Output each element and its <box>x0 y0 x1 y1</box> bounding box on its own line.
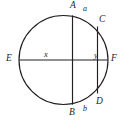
circle-geometry-figure: A a C E x y F D b B <box>0 0 125 120</box>
point-label-c: C <box>99 15 105 25</box>
segment-label-y: y <box>94 51 98 60</box>
geometry-canvas <box>0 0 125 120</box>
point-label-e: E <box>6 54 12 64</box>
segment-label-x: x <box>44 50 48 59</box>
point-label-d: D <box>96 97 103 107</box>
point-label-b: B <box>69 108 75 118</box>
arc-label-b: b <box>83 105 87 113</box>
point-label-a: A <box>70 1 76 11</box>
arc-label-a: a <box>83 5 87 13</box>
point-label-f: F <box>111 54 117 64</box>
